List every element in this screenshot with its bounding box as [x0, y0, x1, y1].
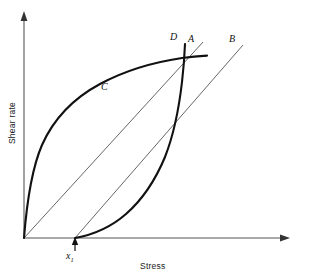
x-axis-label: Stress	[140, 261, 166, 271]
curve-C	[24, 56, 207, 238]
straight-lines-group	[24, 42, 243, 238]
line-B	[75, 45, 243, 238]
curve-label-A: A	[188, 33, 194, 44]
curve-D-group	[75, 44, 185, 238]
axes-group	[21, 11, 290, 241]
curve-label-B: B	[229, 33, 235, 44]
curve-D	[75, 44, 185, 238]
arrow-up-icon	[21, 11, 28, 21]
yield-stress-marker-group	[72, 237, 78, 251]
rheology-flow-curve-figure: Shear rate Stress C D A B x1	[0, 0, 309, 278]
line-A	[24, 42, 203, 238]
curve-C-group	[24, 56, 207, 238]
y-axis-label: Shear rate	[7, 93, 17, 153]
arrow-right-icon	[280, 235, 290, 242]
curve-label-C: C	[101, 81, 108, 92]
chart-canvas	[0, 0, 309, 278]
curve-label-D: D	[170, 31, 177, 42]
yield-stress-label: x1	[66, 250, 74, 263]
yield-stress-subscript: 1	[70, 256, 73, 263]
